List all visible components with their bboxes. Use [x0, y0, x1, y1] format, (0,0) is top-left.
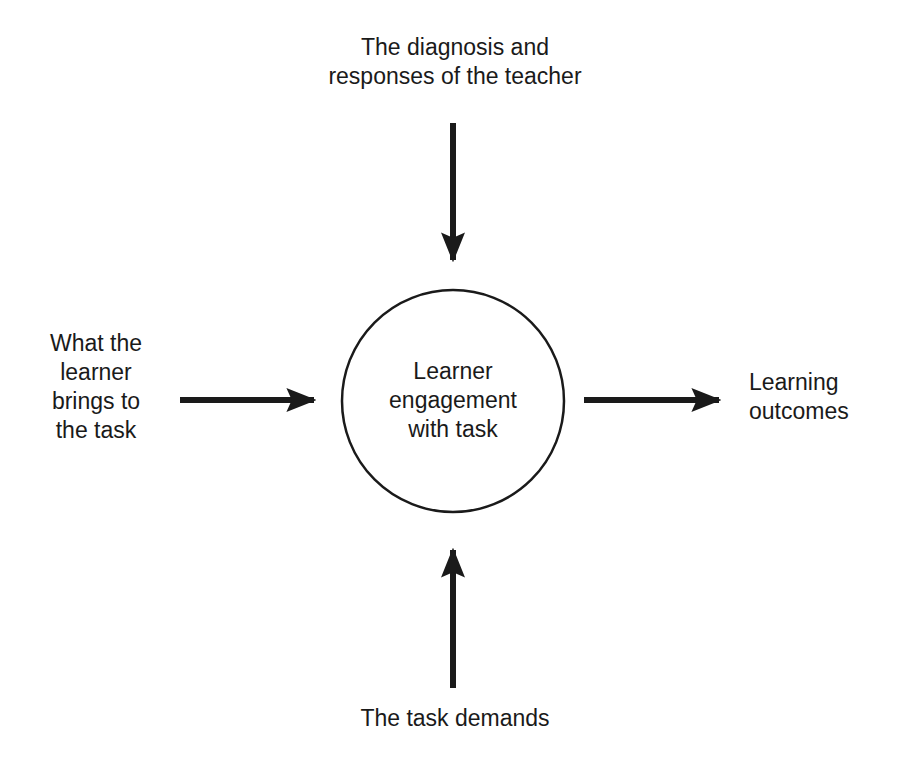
label-line: outcomes [749, 397, 849, 426]
teacher-diagnosis-label: The diagnosis and responses of the teach… [255, 33, 655, 91]
learning-outcomes-label: Learning outcomes [749, 368, 849, 426]
label-line: learner [0, 358, 192, 387]
learner-brings-label: What the learner brings to the task [0, 329, 192, 445]
label-line: The task demands [255, 704, 655, 733]
label-line: What the [0, 329, 192, 358]
label-line: Learner [343, 357, 563, 386]
label-line: responses of the teacher [255, 62, 655, 91]
label-line: the task [0, 416, 192, 445]
label-line: The diagnosis and [255, 33, 655, 62]
label-line: with task [343, 415, 563, 444]
center-node-label: Learner engagement with task [343, 357, 563, 444]
label-line: brings to [0, 387, 192, 416]
task-demands-label: The task demands [255, 704, 655, 733]
label-line: Learning [749, 368, 849, 397]
label-line: engagement [343, 386, 563, 415]
